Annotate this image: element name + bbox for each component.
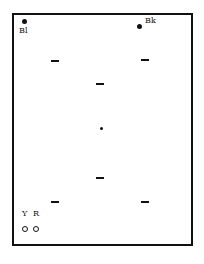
y-ring-marker: [22, 226, 28, 232]
bl-label: Bl: [19, 27, 27, 35]
dash-lower-left: [51, 201, 59, 203]
dash-upper-left: [51, 60, 59, 62]
r-ring-marker: [33, 226, 39, 232]
dash-lower-center: [96, 177, 104, 179]
center-dot-marker: [100, 127, 103, 130]
y-label: Y: [22, 210, 27, 218]
dash-upper-right: [141, 59, 149, 61]
bk-label: Bk: [145, 17, 156, 25]
bl-dot-marker: [22, 19, 27, 24]
dash-lower-right: [141, 201, 149, 203]
r-label: R: [33, 210, 39, 218]
dash-upper-center: [96, 83, 104, 85]
bk-dot-marker: [137, 24, 142, 29]
